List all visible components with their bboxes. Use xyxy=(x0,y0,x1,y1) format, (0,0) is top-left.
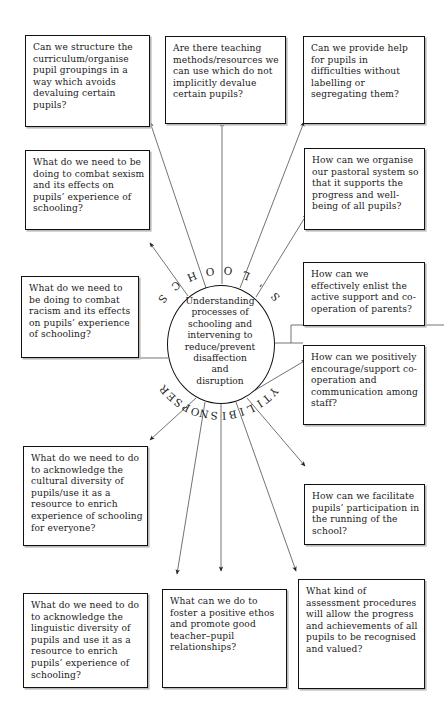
question-box-pastoral[interactable]: How can we organise our pastoral system … xyxy=(304,148,425,230)
question-text-help: Can we provide help for pupils in diffic… xyxy=(311,43,420,101)
question-box-staff[interactable]: How can we positively encourage/support … xyxy=(303,345,425,425)
center-line-2: schooling and xyxy=(168,319,272,330)
question-text-cultural: What do we need to do to acknowledge the… xyxy=(31,453,143,534)
arc-glyph: O xyxy=(223,265,233,278)
center-line-7: disruption xyxy=(168,376,272,387)
center-line-5: disaffection xyxy=(168,353,272,364)
arc-glyph: S xyxy=(210,409,218,422)
question-box-facilitate[interactable]: How can we facilitate pupils’ participat… xyxy=(304,484,425,545)
question-box-assessment[interactable]: What kind of assessment procedures will … xyxy=(298,579,425,689)
question-box-ethos[interactable]: What can we do to foster a positive etho… xyxy=(162,589,287,688)
question-text-facilitate: How can we facilitate pupils’ participat… xyxy=(312,491,420,537)
diagram-canvas: Can we structure the curriculum/organise… xyxy=(0,0,444,714)
center-label: Understanding processes of schooling and… xyxy=(168,296,272,387)
question-box-help[interactable]: Can we provide help for pupils in diffic… xyxy=(303,36,425,124)
question-text-curriculum: Can we structure the curriculum/organise… xyxy=(33,42,145,112)
connector-curriculum xyxy=(150,122,206,288)
arc-glyph: O xyxy=(204,265,214,278)
question-text-teaching: Are there teaching methods/resources we … xyxy=(173,43,281,101)
question-box-teaching[interactable]: Are there teaching methods/resources we … xyxy=(165,36,286,124)
question-text-linguistic: What do we need to do to acknowledge the… xyxy=(31,600,143,681)
question-box-racism[interactable]: What do we need to be doing to combat ra… xyxy=(21,276,139,358)
center-line-0: Understanding xyxy=(168,296,272,307)
question-text-sexism: What do we need to be doing to combat se… xyxy=(33,157,145,215)
arc-glyph: I xyxy=(221,410,226,422)
center-line-4: reduce/prevent xyxy=(168,342,272,353)
question-text-racism: What do we need to be doing to combat ra… xyxy=(29,283,134,341)
connector-parents-elbow xyxy=(291,325,444,343)
connector-assessment xyxy=(236,402,296,571)
question-text-assessment: What kind of assessment procedures will … xyxy=(306,586,420,656)
question-text-parents: How can we effectively enlist the active… xyxy=(311,269,420,315)
question-text-pastoral: How can we organise our pastoral system … xyxy=(312,155,420,213)
connector-facilitate xyxy=(247,398,305,466)
question-box-curriculum[interactable]: Can we structure the curriculum/organise… xyxy=(25,35,150,127)
center-line-6: and xyxy=(168,364,272,375)
question-text-ethos: What can we do to foster a positive etho… xyxy=(170,596,282,654)
center-line-3: intervening to xyxy=(168,330,272,341)
center-line-1: processes of xyxy=(168,307,272,318)
connector-help xyxy=(240,122,304,288)
question-box-linguistic[interactable]: What do we need to do to acknowledge the… xyxy=(23,593,148,688)
question-box-sexism[interactable]: What do we need to be doing to combat se… xyxy=(25,150,150,230)
question-box-parents[interactable]: How can we effectively enlist the active… xyxy=(303,262,425,326)
connector-linguistic xyxy=(177,402,205,574)
question-text-staff: How can we positively encourage/support … xyxy=(311,352,420,410)
question-box-cultural[interactable]: What do we need to do to acknowledge the… xyxy=(23,446,148,546)
